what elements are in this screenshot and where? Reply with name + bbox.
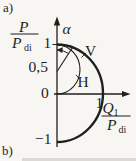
y-axis-title-denominator-subscript: di [24,42,32,53]
y-tick-label-minus-1: −1 [35,130,52,147]
y-tick-label-0: 0 [41,84,49,101]
x-axis-title-denominator: P [106,116,117,133]
y-axis-title-numerator: P [18,18,29,35]
y-axis-arrow-icon [54,17,60,26]
curve-label-h: H [78,73,89,90]
locus-diagram: a) b) P P di 1 0,5 0 −1 1 Q 1 P di α V H [0,0,136,161]
y-tick-label-1: 1 [44,34,52,51]
scan-artifact-smudge [22,158,136,161]
curve-label-v: V [85,42,97,59]
panel-label-a: a) [3,0,13,15]
panel-label-b: b) [2,143,13,158]
x-axis-arrow-icon [122,91,131,97]
x-axis-title-denominator-subscript: di [119,124,127,135]
angle-alpha-label: α [63,20,72,37]
y-axis-title-denominator: P [11,34,22,51]
x-axis-title-numerator: Q [103,99,114,116]
figure-canvas: a) b) P P di 1 0,5 0 −1 1 Q 1 P di α V H [0,0,136,161]
y-tick-label-0-5: 0,5 [29,58,49,75]
